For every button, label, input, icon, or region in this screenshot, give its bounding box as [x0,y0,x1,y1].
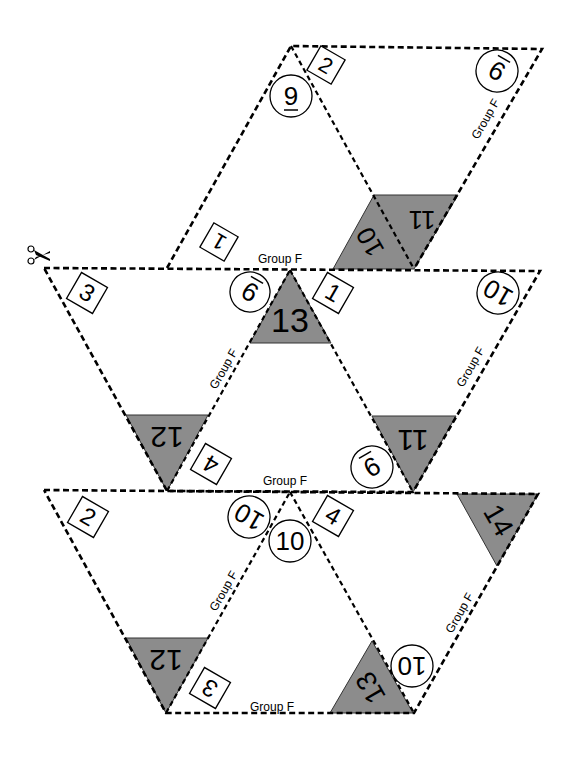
gray-label-13: 13 [271,301,309,339]
square-label-3: 3 [67,273,108,314]
square-label-2-bottom: 2 [68,497,109,538]
net-diagram: 1 2 9 9 10 11 Group F Gr [0,0,573,762]
circle-label-10-bottom-b: 10 [269,520,311,562]
middle-piece: Group F Group F Group F 3 1 4 9 10 9 [44,252,540,496]
svg-text:9: 9 [284,81,298,111]
svg-text:10: 10 [276,526,305,556]
gray-label-11: 11 [409,205,436,235]
gray-label-12-bottom: 12 [149,644,182,677]
group-label-bottom-bottom: Group F [250,700,294,714]
square-label-4: 4 [191,444,232,485]
square-label-3-bottom: 3 [190,668,231,709]
square-label-1: 1 [200,223,238,261]
square-label-4-bottom: 4 [313,496,354,537]
group-label-middle-right: Group F [453,344,487,389]
square-label-2: 2 [307,46,345,84]
scissors-icon [28,246,50,264]
svg-text:10: 10 [398,651,427,681]
circle-label-9: 9 [270,75,312,117]
group-label-top-right: Group F [468,96,502,141]
gray-face-top [333,195,458,269]
group-label-middle-top: Group F [258,252,302,266]
fold-line-bottom-left [166,492,290,713]
group-label-bottom-top: Group F [263,474,307,488]
square-label-1-middle: 1 [313,273,354,314]
circle-label-10-bottom-c: 10 [391,645,433,687]
circle-label-10-middle: 10 [469,264,526,321]
gray-label-12: 12 [150,421,183,454]
bottom-piece: Group F Group F Group F Group F 2 4 3 10… [44,474,538,714]
gray-label-11-middle: 11 [397,424,428,457]
top-piece: 1 2 9 9 10 11 Group F [167,42,542,269]
